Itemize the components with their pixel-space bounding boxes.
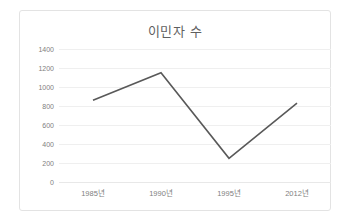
y-axis-tick-label: 200 [42,160,54,167]
x-axis-tick-labels: 1985년1990년1995년2012년 [59,187,331,207]
x-axis-tick-label: 1995년 [217,187,241,198]
series-line-immigrants [93,73,297,159]
y-axis-tick-label: 600 [42,122,54,129]
y-axis-tick-label: 1400 [38,46,54,53]
gridline-0 [59,182,331,183]
x-axis-tick-label: 2012년 [285,187,309,198]
y-axis-tick-label: 0 [50,179,54,186]
y-axis-tick-label: 400 [42,141,54,148]
plot-area: 0200400600800100012001400 [59,49,331,182]
y-axis-tick-label: 1000 [38,84,54,91]
series-line-group [59,49,331,182]
chart-title: 이민자 수 [20,21,330,40]
x-axis-tick-label: 1990년 [149,187,173,198]
x-axis-tick-label: 1985년 [81,187,105,198]
y-axis-tick-label: 1200 [38,65,54,72]
y-axis-tick-label: 800 [42,103,54,110]
chart-frame: 이민자 수 0200400600800100012001400 1985년199… [19,10,331,211]
